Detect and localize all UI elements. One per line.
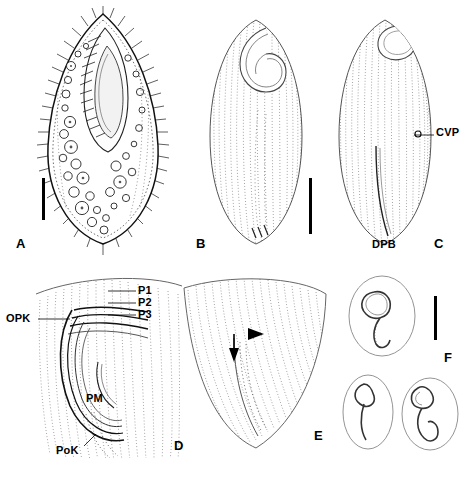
annotation-cvp: CVP — [436, 126, 459, 138]
panel-label-e: E — [314, 428, 323, 443]
annotation-opk-leader — [36, 312, 80, 326]
annotation-p2: P2 — [138, 296, 152, 308]
panel-f-macronuclei: F — [340, 272, 468, 458]
annotation-dpb: DPB — [372, 238, 396, 250]
annotation-pok: PoK — [56, 444, 79, 456]
figure-plate: A — [0, 0, 476, 477]
scalebar-b — [309, 178, 312, 234]
annotation-opk: OPK — [6, 312, 30, 324]
scalebar-a — [42, 178, 45, 220]
scalebar-f — [434, 296, 437, 340]
panel-b-ventral-infraciliature: B — [196, 14, 316, 252]
panel-label-f: F — [444, 350, 452, 365]
annotation-p1: P1 — [138, 284, 152, 296]
panel-e-posterior-detail: E — [178, 272, 332, 454]
panel-label-b: B — [196, 236, 206, 251]
annotation-pm: PM — [86, 392, 103, 404]
panel-label-a: A — [16, 236, 26, 251]
annotation-p3: P3 — [138, 308, 152, 320]
panel-a-whole-cell-ventral-view: A — [8, 6, 198, 256]
panel-label-c: C — [434, 236, 444, 251]
